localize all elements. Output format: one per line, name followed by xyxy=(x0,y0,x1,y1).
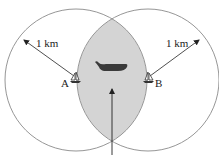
whale-location-diagram: 1 km 1 km A B xyxy=(0,0,219,155)
point-label-a: A xyxy=(61,77,69,89)
point-label-b: B xyxy=(155,77,162,89)
radius-label-left: 1 km xyxy=(36,37,59,49)
radius-label-right: 1 km xyxy=(166,37,189,49)
